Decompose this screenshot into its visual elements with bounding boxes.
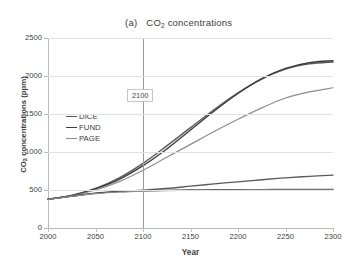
legend-swatch-dice [66, 116, 77, 117]
y-tick-mark-1000 [44, 152, 48, 153]
x-axis-title: Year [48, 248, 333, 257]
gridline-500 [48, 190, 333, 191]
legend-swatch-page [66, 138, 77, 139]
x-tick-label-2250: 2250 [266, 232, 306, 241]
y-axis-title-main: CO [19, 161, 28, 173]
y-axis-title-subscript: 2 [22, 158, 28, 161]
x-tick-label-2150: 2150 [171, 232, 211, 241]
plot-lines [0, 0, 346, 268]
x-tick-label-2200: 2200 [218, 232, 258, 241]
legend-label-fund: FUND [79, 123, 101, 132]
legend-item-dice[interactable]: DICE [66, 111, 101, 121]
y-tick-mark-2500 [44, 38, 48, 39]
gridline-2000 [48, 76, 333, 77]
x-tick-label-2000: 2000 [28, 232, 68, 241]
x-tick-label-2100: 2100 [123, 232, 163, 241]
gridline-1000 [48, 152, 333, 153]
y-tick-mark-2000 [44, 76, 48, 77]
year-2100-marker-line [143, 38, 144, 228]
legend-item-fund[interactable]: FUND [66, 122, 101, 132]
x-tick-label-2050: 2050 [76, 232, 116, 241]
y-tick-mark-500 [44, 190, 48, 191]
x-tick-label-2300: 2300 [313, 232, 346, 241]
legend: DICE FUND PAGE [66, 111, 101, 144]
figure-co2-concentrations: (a)CO2 concentrations 050010001500200025… [0, 0, 346, 268]
legend-label-page: PAGE [79, 134, 100, 143]
y-axis-title: CO2 concentrations (ppm) [19, 50, 28, 200]
legend-item-page[interactable]: PAGE [66, 133, 101, 143]
y-axis-title-rest: concentrations (ppm) [19, 76, 28, 158]
y-tick-mark-1500 [44, 114, 48, 115]
gridline-1500 [48, 114, 333, 115]
gridline-2500 [48, 38, 333, 39]
year-2100-marker-label: 2100 [127, 89, 153, 102]
legend-label-dice: DICE [79, 112, 98, 121]
legend-swatch-fund [66, 127, 77, 128]
series-line-dice-low [48, 175, 333, 199]
